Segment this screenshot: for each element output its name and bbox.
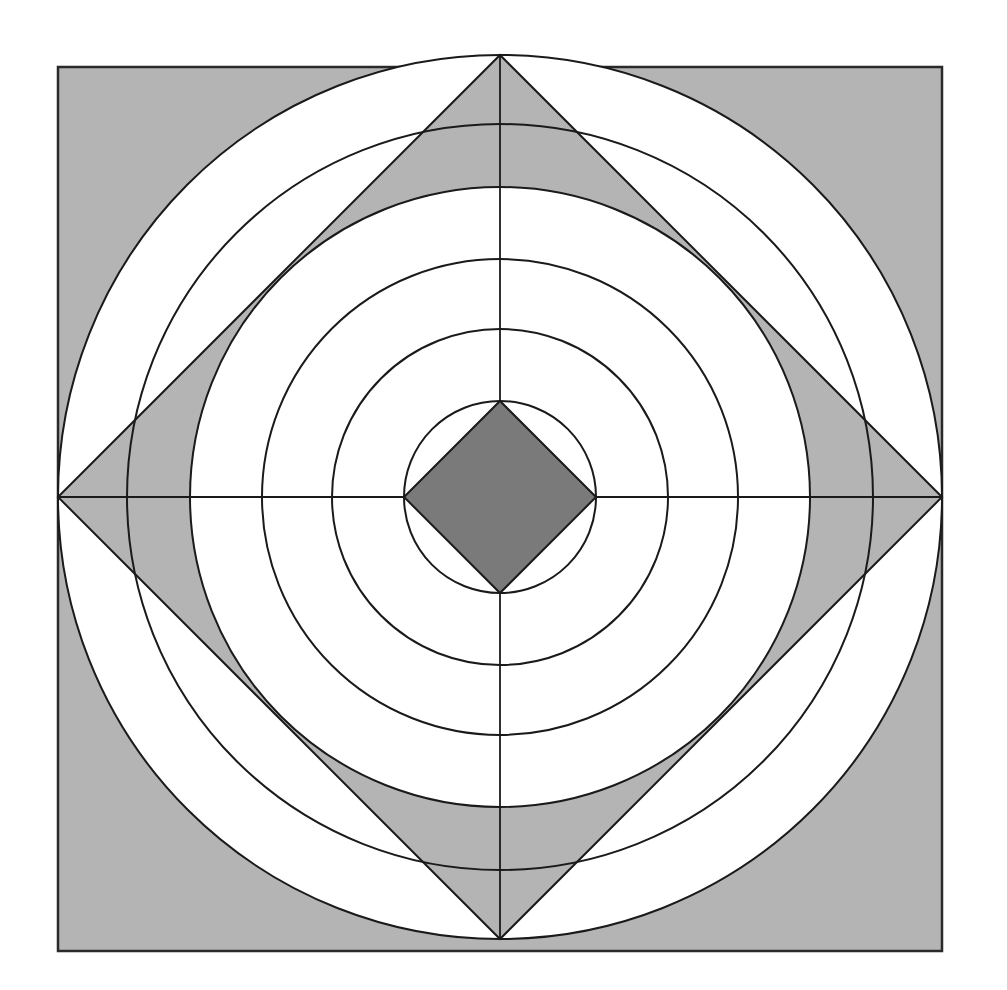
- geometric-figure: [0, 0, 1007, 990]
